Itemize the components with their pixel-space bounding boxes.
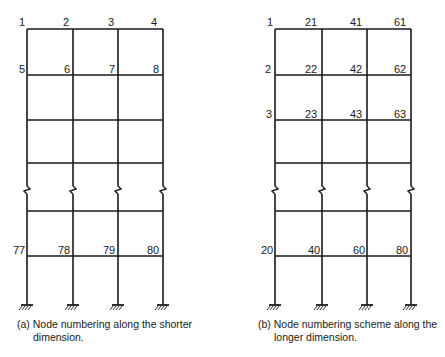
support-hatch (323, 306, 326, 310)
support-hatch (412, 306, 415, 310)
break-symbol-icon (160, 186, 166, 194)
node-label: 3 (266, 109, 272, 120)
caption-a-line2: dimension. (17, 331, 192, 344)
support-hatch (161, 306, 164, 310)
support-hatch (158, 306, 161, 310)
support-hatch (362, 306, 365, 310)
support-hatch (276, 306, 279, 310)
support-hatch (19, 306, 22, 310)
node-label: 8 (153, 64, 159, 75)
support-hatch (65, 306, 68, 310)
node-label: 41 (350, 17, 362, 28)
break-symbol-icon (24, 186, 30, 194)
node-label: 4 (151, 17, 157, 28)
break-symbol-icon (70, 186, 76, 194)
node-label: 2 (265, 64, 271, 75)
node-label: 2 (63, 17, 69, 28)
node-label: 60 (353, 245, 365, 256)
caption-a: (a) Node numbering along the shorter dim… (17, 318, 192, 344)
node-label: 1 (19, 17, 25, 28)
support-hatch (365, 306, 368, 310)
node-label: 23 (305, 109, 317, 120)
support-hatch (155, 306, 158, 310)
node-label: 22 (305, 64, 317, 75)
frame-a (19, 29, 169, 310)
support-hatch (74, 306, 77, 310)
support-hatch (119, 306, 122, 310)
break-symbol-icon (408, 186, 414, 194)
break-symbol-icon (272, 186, 278, 194)
node-label: 78 (58, 245, 70, 256)
node-label: 40 (308, 245, 320, 256)
node-label: 21 (305, 17, 317, 28)
support-hatch (320, 306, 323, 310)
break-symbol-icon (115, 186, 121, 194)
support-hatch (368, 306, 371, 310)
node-label: 3 (108, 17, 114, 28)
support-hatch (267, 306, 270, 310)
caption-b: (b) Node numbering scheme along the long… (258, 318, 437, 344)
support-hatch (164, 306, 167, 310)
node-label: 20 (261, 245, 273, 256)
support-hatch (28, 306, 31, 310)
break-symbol-icon (319, 186, 325, 194)
frames-drawing (0, 0, 445, 357)
break-symbol-icon (364, 186, 370, 194)
support-hatch (113, 306, 116, 310)
support-hatch (22, 306, 25, 310)
node-label: 63 (394, 109, 406, 120)
support-hatch (314, 306, 317, 310)
caption-b-line1: (b) Node numbering scheme along the (258, 318, 437, 330)
support-hatch (403, 306, 406, 310)
support-hatch (409, 306, 412, 310)
node-label: 1 (267, 17, 273, 28)
node-label: 79 (103, 245, 115, 256)
support-hatch (25, 306, 28, 310)
node-label: 80 (396, 245, 408, 256)
support-hatch (110, 306, 113, 310)
support-hatch (359, 306, 362, 310)
caption-a-line1: (a) Node numbering along the shorter (17, 318, 192, 330)
support-hatch (273, 306, 276, 310)
node-label: 77 (13, 245, 25, 256)
node-label: 42 (350, 64, 362, 75)
node-label: 61 (394, 17, 406, 28)
support-hatch (71, 306, 74, 310)
node-label: 62 (394, 64, 406, 75)
support-hatch (68, 306, 71, 310)
caption-b-line2: longer dimension. (258, 331, 437, 344)
node-label: 6 (64, 64, 70, 75)
support-hatch (406, 306, 409, 310)
support-hatch (317, 306, 320, 310)
node-label: 80 (147, 245, 159, 256)
node-label: 7 (109, 64, 115, 75)
node-label: 5 (19, 64, 25, 75)
support-hatch (270, 306, 273, 310)
node-label: 43 (350, 109, 362, 120)
support-hatch (116, 306, 119, 310)
